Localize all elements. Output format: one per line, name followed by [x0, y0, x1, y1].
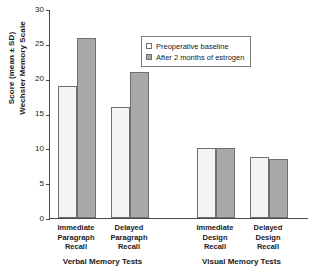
bar-estrogen: [77, 38, 96, 218]
bar-baseline: [197, 148, 216, 218]
x-axis-category-label-line: Recall: [89, 242, 169, 252]
legend-item-estrogen: After 2 months of estrogen: [146, 52, 244, 62]
bar-baseline: [58, 86, 77, 218]
y-axis-tick-label: 15: [22, 109, 44, 119]
x-axis-group-label: Verbal Memory Tests: [33, 257, 173, 267]
x-axis-category-label-line: Recall: [228, 242, 308, 252]
y-axis-tick: [46, 115, 50, 116]
y-axis-tick-label: 5: [22, 179, 44, 189]
y-axis-tick: [46, 80, 50, 81]
x-axis-group-label: Visual Memory Tests: [172, 257, 312, 267]
x-axis-category-label-line: Delayed: [228, 223, 308, 233]
y-axis-title: Score (mean ± SD) Wechsler Memory Scale: [7, 0, 33, 143]
x-axis-category-label-line: Delayed: [89, 223, 169, 233]
x-axis-category-label-line: Paragraph: [89, 233, 169, 243]
y-axis-tick-label: 25: [22, 39, 44, 49]
bar-estrogen: [269, 159, 288, 218]
bar-estrogen: [130, 72, 149, 218]
y-axis-tick-label: 30: [22, 5, 44, 15]
legend-label-estrogen: After 2 months of estrogen: [156, 53, 244, 62]
bar-estrogen: [216, 148, 235, 218]
x-axis-category-label: DelayedParagraphRecall: [89, 223, 169, 252]
bar-baseline: [250, 157, 269, 218]
legend-swatch-icon-estrogen: [146, 54, 152, 60]
y-axis-tick: [46, 184, 50, 185]
y-axis-tick-label: 20: [22, 74, 44, 84]
legend-item-baseline: Preoperative baseline: [146, 41, 244, 51]
chart-legend: Preoperative baseline After 2 months of …: [141, 36, 251, 67]
y-axis-tick: [46, 10, 50, 11]
bar-baseline: [111, 107, 130, 218]
y-axis-tick-label: 0: [22, 214, 44, 224]
x-axis-category-label: DelayedDesignRecall: [228, 223, 308, 252]
y-axis-title-line-2: Wechsler Memory Scale: [18, 0, 29, 143]
legend-swatch-icon-baseline: [146, 43, 152, 49]
legend-label-baseline: Preoperative baseline: [156, 42, 229, 51]
y-axis-tick-label: 10: [22, 144, 44, 154]
y-axis-tick: [46, 219, 50, 220]
y-axis-title-line-1: Score (mean ± SD): [7, 0, 18, 143]
y-axis-tick: [46, 149, 50, 150]
y-axis-tick: [46, 45, 50, 46]
x-axis-category-label-line: Design: [228, 233, 308, 243]
